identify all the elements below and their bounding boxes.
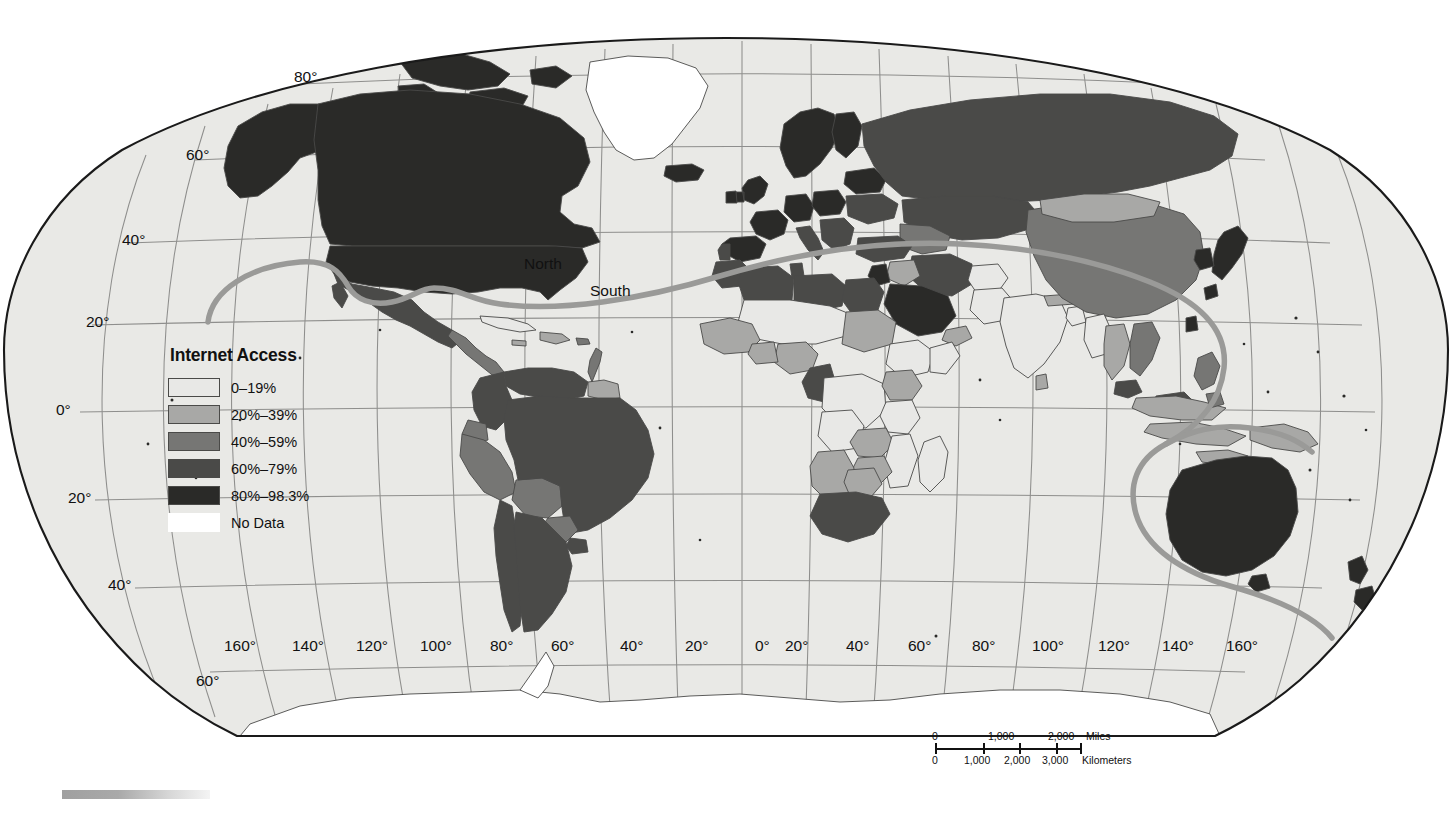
legend-title: Internet Access [170,345,338,366]
lon-label-120e: 120° [1098,637,1130,655]
region-jamaica [512,340,526,346]
lon-label-20e: 20° [785,637,808,655]
lon-label-40w: 40° [620,637,643,655]
lon-label-60w: 60° [551,637,574,655]
legend-label-80-983: 80%–98.3% [231,488,309,504]
region-sri-lanka [1036,374,1048,390]
lon-label-160w: 160° [224,637,256,655]
world-map-figure: 80° 60° 40° 20° 0° 20° 40° 60° 160° 140°… [0,0,1452,813]
lon-label-140w: 140° [292,637,324,655]
lat-label-40s: 40° [108,576,131,594]
legend-item-40-59[interactable]: 40%–59% [168,428,338,455]
region-egypt [842,278,884,314]
legend-swatch-20-39 [168,405,220,424]
legend-swatch-80-983 [168,486,220,505]
scale-km-unit: Kilometers [1082,754,1132,766]
lon-label-40e: 40° [846,637,869,655]
legend-label-20-39: 20%–39% [231,407,297,423]
lat-label-20n: 20° [86,313,109,331]
region-poland [812,190,846,216]
scale-miles-tick-2000: 2,000 [1048,730,1074,742]
map-scale-bar: 0 1,000 2,000 Miles 0 1,000 2,000 3,000 … [932,730,1147,768]
scale-km-labels: 0 1,000 2,000 3,000 Kilometers [932,754,1147,768]
scale-miles-tick-0: 0 [932,730,938,742]
lon-label-100e: 100° [1032,637,1064,655]
legend-swatch-no-data [168,513,220,532]
map-legend: Internet Access 0–19% 20%–39% 40%–59% 60… [168,345,338,536]
lat-label-40n: 40° [122,231,145,249]
legend-swatch-40-59 [168,432,220,451]
scan-artifact-strip [62,790,210,799]
lon-label-60e: 60° [908,637,931,655]
legend-swatch-0-19 [168,378,220,397]
divide-label-north: North [524,255,562,273]
divide-label-south: South [590,282,631,300]
legend-label-no-data: No Data [231,515,284,531]
lon-label-80w: 80° [490,637,513,655]
scale-miles-unit: Miles [1086,730,1111,742]
scale-km-tick-2000: 2,000 [1004,754,1030,766]
lat-label-0: 0° [56,401,71,419]
region-iceland [664,164,704,182]
legend-item-no-data[interactable]: No Data [168,509,338,536]
lon-label-140e: 140° [1162,637,1194,655]
lon-label-0: 0° [755,637,770,655]
legend-label-60-79: 60%–79% [231,461,297,477]
region-ireland [726,191,737,203]
scale-miles-labels: 0 1,000 2,000 Miles [932,730,1147,743]
legend-item-20-39[interactable]: 20%–39% [168,401,338,428]
region-puerto-rico [576,338,590,345]
legend-item-0-19[interactable]: 0–19% [168,374,338,401]
lon-label-20w: 20° [685,637,708,655]
region-guyanas [588,380,620,400]
legend-item-60-79[interactable]: 60%–79% [168,455,338,482]
legend-item-80-983[interactable]: 80%–98.3% [168,482,338,509]
lon-label-100w: 100° [420,637,452,655]
lat-label-60n: 60° [186,146,209,164]
lon-label-160e: 160° [1226,637,1258,655]
scale-miles-tick-1000: 1,000 [988,730,1014,742]
lon-label-80e: 80° [972,637,995,655]
lat-label-60s: 60° [196,672,219,690]
scale-km-tick-3000: 3,000 [1042,754,1068,766]
region-taiwan [1186,316,1198,332]
lat-label-80n: 80° [294,68,317,86]
legend-swatch-60-79 [168,459,220,478]
scale-line [932,743,1147,754]
legend-label-40-59: 40%–59% [231,434,297,450]
scale-km-tick-0: 0 [932,754,938,766]
region-mongolia [1040,194,1160,222]
lon-label-120w: 120° [356,637,388,655]
legend-label-0-19: 0–19% [231,380,276,396]
lat-label-20s: 20° [68,489,91,507]
scale-km-tick-1000: 1,000 [964,754,990,766]
